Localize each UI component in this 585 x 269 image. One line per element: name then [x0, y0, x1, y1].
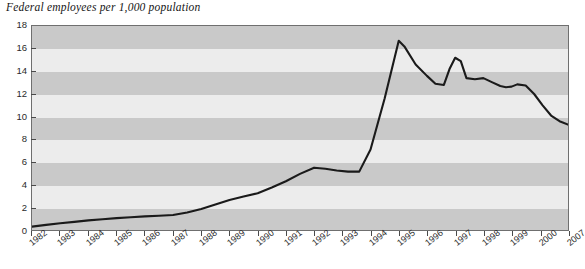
y-tick-label: 8	[5, 133, 27, 144]
y-tick-mark	[31, 48, 36, 49]
chart-figure: Federal employees per 1,000 population 1…	[0, 0, 585, 269]
y-tick-label: 4	[5, 179, 27, 190]
y-axis: 181614121086420	[0, 0, 27, 269]
y-tick-mark	[31, 94, 36, 95]
y-tick-mark	[31, 208, 36, 209]
y-tick-mark	[31, 139, 36, 140]
y-tick-label: 16	[5, 42, 27, 53]
y-tick-mark	[31, 71, 36, 72]
y-tick-mark	[31, 185, 36, 186]
y-tick-mark	[31, 162, 36, 163]
y-tick-label: 6	[5, 156, 27, 167]
y-tick-label: 10	[5, 111, 27, 122]
y-tick-label: 2	[5, 202, 27, 213]
data-line-chart	[32, 26, 568, 230]
y-tick-label: 14	[5, 65, 27, 76]
y-tick-label: 18	[5, 19, 27, 30]
y-tick-mark	[31, 117, 36, 118]
y-tick-label: 12	[5, 88, 27, 99]
series-line-federal-employees	[32, 41, 568, 227]
plot-area	[31, 25, 569, 231]
chart-title: Federal employees per 1,000 population	[6, 1, 200, 13]
y-tick-label: 0	[5, 225, 27, 236]
